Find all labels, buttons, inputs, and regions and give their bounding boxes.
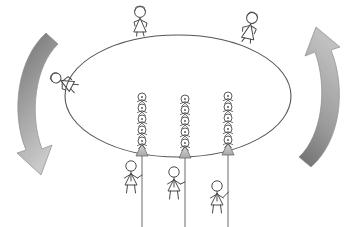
figure-hanging-left <box>125 161 143 193</box>
figure-hanging-right <box>211 181 229 213</box>
diagram-svg <box>0 0 359 227</box>
rotation-arrow-right <box>299 27 340 167</box>
figure-hanging-middle <box>168 167 186 199</box>
rotation-arrow-left <box>17 33 58 175</box>
figure-top-right <box>240 11 260 44</box>
figure-top-left <box>134 6 147 36</box>
diagram-canvas: Stick figure crowd on rotating ellipse p… <box>0 0 359 227</box>
ellipse-platform <box>65 35 291 157</box>
